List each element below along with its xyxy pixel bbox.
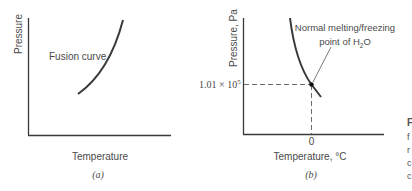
panel-b-caption: (b): [305, 169, 317, 181]
fragment-1: f: [407, 132, 410, 142]
annotation-line-2: point of H2O: [319, 36, 371, 49]
melting-point-marker: [309, 82, 313, 86]
fragment-3: c: [407, 158, 412, 168]
panel-a-x-label: Temperature: [72, 151, 129, 162]
fragment-2: r: [407, 145, 410, 155]
panel-b-y-label: Pressure, Pa: [228, 9, 239, 67]
fragment-4: c: [407, 171, 412, 181]
panel-a-y-label: Pressure: [13, 14, 24, 54]
fusion-curve-label: Fusion curve: [49, 51, 107, 62]
y-tick-label: 1.01 × 105: [199, 78, 241, 90]
phase-diagrams: Pressure Fusion curve Temperature (a) Pr…: [0, 0, 412, 191]
panel-a-caption: (a): [92, 169, 104, 181]
cropped-caption-fragments: F f r c c: [407, 117, 412, 181]
fragment-0: F: [407, 117, 412, 128]
x-tick-label: 0: [309, 136, 315, 147]
panel-b: Pressure, Pa Normal melting/freezing poi…: [199, 9, 395, 181]
panel-b-x-label: Temperature, °C: [274, 151, 347, 162]
annotation-line-1: Normal melting/freezing: [295, 22, 395, 33]
annotation-leader-line: [313, 47, 331, 82]
panel-a: Pressure Fusion curve Temperature (a): [13, 14, 171, 181]
